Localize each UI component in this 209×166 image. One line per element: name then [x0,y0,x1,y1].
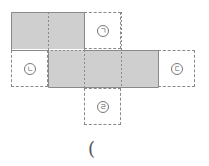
net-outline [0,0,209,166]
answer-open-paren: ( [88,138,95,159]
